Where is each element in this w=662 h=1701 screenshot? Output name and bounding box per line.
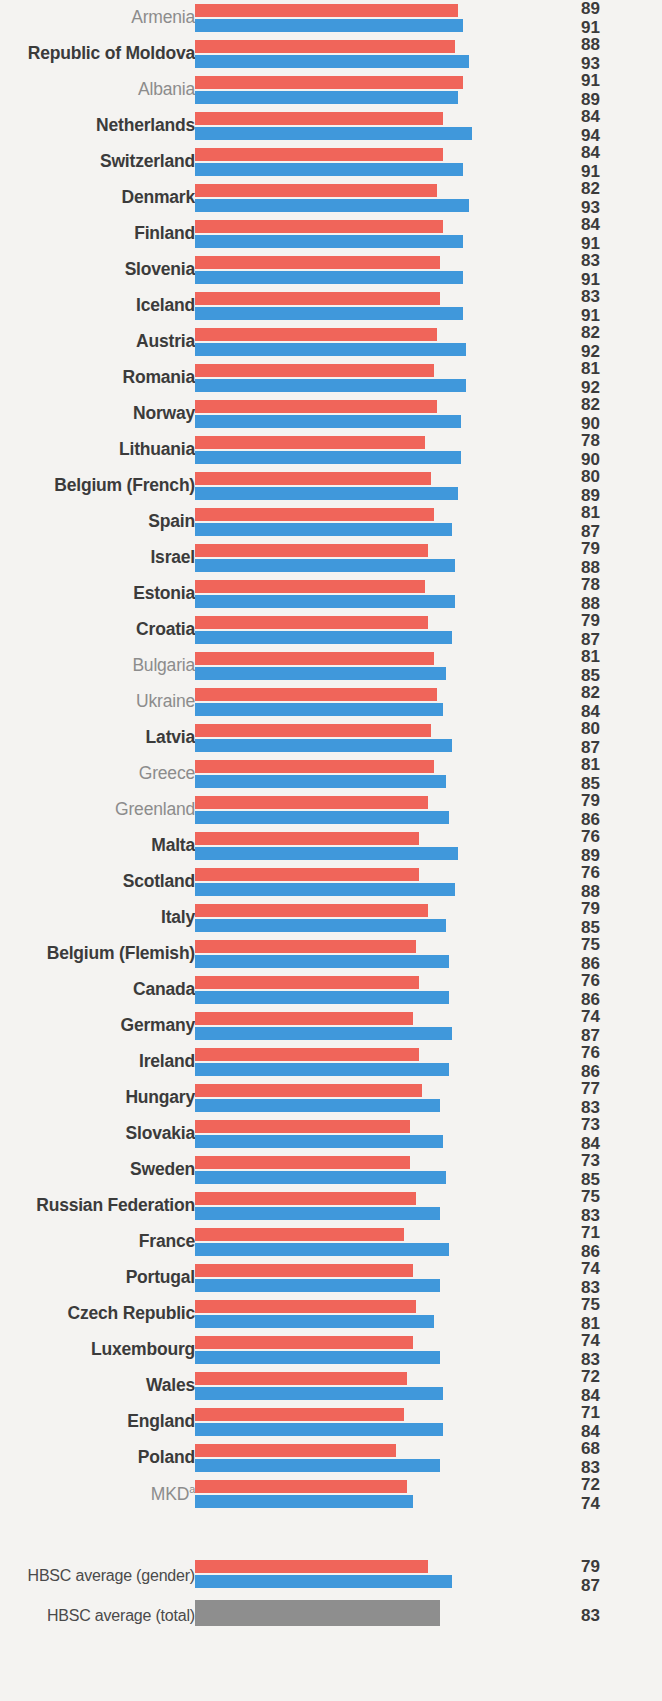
girls-bar bbox=[195, 364, 434, 377]
country-row: Czech Republic7581 bbox=[0, 1296, 662, 1332]
bar-group bbox=[195, 940, 449, 968]
girls-value: 74 bbox=[555, 1259, 600, 1278]
country-row: Spain8187 bbox=[0, 504, 662, 540]
girls-value: 75 bbox=[555, 1187, 600, 1206]
country-label: Sweden bbox=[130, 1161, 195, 1179]
bar-group bbox=[195, 184, 469, 212]
bar-group bbox=[195, 1048, 449, 1076]
bar-group bbox=[195, 1600, 440, 1626]
country-label: MKDa bbox=[151, 1484, 195, 1503]
girls-value: 75 bbox=[555, 1295, 600, 1314]
country-row: Sweden7385 bbox=[0, 1152, 662, 1188]
bar-group bbox=[195, 1372, 443, 1400]
girls-bar bbox=[195, 256, 440, 269]
boys-bar bbox=[195, 667, 446, 680]
value-labels: 7384 bbox=[555, 1115, 600, 1153]
girls-value: 83 bbox=[555, 251, 600, 270]
girls-bar bbox=[195, 544, 428, 557]
country-label: Belgium (French) bbox=[54, 477, 195, 495]
boys-bar bbox=[195, 1135, 443, 1148]
girls-bar bbox=[195, 1048, 419, 1061]
bar-group bbox=[195, 400, 461, 428]
girls-bar bbox=[195, 1300, 416, 1313]
country-row: Greece8185 bbox=[0, 756, 662, 792]
value-labels: 8087 bbox=[555, 719, 600, 757]
girls-bar bbox=[195, 1560, 428, 1573]
girls-value: 81 bbox=[555, 503, 600, 522]
value-labels: 8185 bbox=[555, 647, 600, 685]
value-labels: 8991 bbox=[555, 0, 600, 37]
boys-bar bbox=[195, 127, 472, 140]
value-labels: 7888 bbox=[555, 575, 600, 613]
country-row: Armenia8991 bbox=[0, 0, 662, 36]
section-spacer bbox=[0, 1512, 662, 1556]
boys-bar bbox=[195, 1243, 449, 1256]
value-labels: 7385 bbox=[555, 1151, 600, 1189]
country-row: Estonia7888 bbox=[0, 576, 662, 612]
girls-bar bbox=[195, 184, 437, 197]
value-labels: 8290 bbox=[555, 395, 600, 433]
bar-group bbox=[195, 724, 452, 752]
country-label: Luxembourg bbox=[91, 1341, 195, 1359]
girls-value: 71 bbox=[555, 1223, 600, 1242]
boys-bar bbox=[195, 1351, 440, 1364]
girls-bar bbox=[195, 472, 431, 485]
girls-bar bbox=[195, 1336, 413, 1349]
girls-value: 89 bbox=[555, 0, 600, 18]
girls-bar bbox=[195, 76, 463, 89]
value-labels: 83 bbox=[555, 1606, 600, 1625]
bar-group bbox=[195, 1444, 440, 1472]
girls-value: 76 bbox=[555, 827, 600, 846]
bar-group bbox=[195, 472, 458, 500]
girls-value: 79 bbox=[555, 791, 600, 810]
country-row: Germany7487 bbox=[0, 1008, 662, 1044]
girls-value: 84 bbox=[555, 107, 600, 126]
boys-bar bbox=[195, 775, 446, 788]
value-labels: 8491 bbox=[555, 215, 600, 253]
bar-group bbox=[195, 1300, 434, 1328]
country-row: Bulgaria8185 bbox=[0, 648, 662, 684]
girls-bar bbox=[195, 616, 428, 629]
girls-value: 78 bbox=[555, 431, 600, 450]
girls-value: 72 bbox=[555, 1367, 600, 1386]
country-row: France7186 bbox=[0, 1224, 662, 1260]
country-label: Albania bbox=[138, 81, 195, 99]
girls-bar bbox=[195, 940, 416, 953]
bar-group bbox=[195, 544, 455, 572]
girls-value: 76 bbox=[555, 971, 600, 990]
country-row: Canada7686 bbox=[0, 972, 662, 1008]
country-row: Denmark8293 bbox=[0, 180, 662, 216]
girls-bar bbox=[195, 148, 443, 161]
average-row: HBSC average (total)83 bbox=[0, 1596, 662, 1636]
country-row: Hungary7783 bbox=[0, 1080, 662, 1116]
girls-bar bbox=[195, 1372, 407, 1385]
boys-bar bbox=[195, 1207, 440, 1220]
boys-bar bbox=[195, 199, 469, 212]
boys-bar bbox=[195, 307, 463, 320]
girls-value: 79 bbox=[555, 1557, 600, 1576]
value-labels: 7284 bbox=[555, 1367, 600, 1405]
bar-group bbox=[195, 4, 463, 32]
country-row: Poland6883 bbox=[0, 1440, 662, 1476]
bar-group bbox=[195, 832, 458, 860]
girls-value: 78 bbox=[555, 575, 600, 594]
girls-value: 71 bbox=[555, 1403, 600, 1422]
bar-group bbox=[195, 220, 463, 248]
average-label: HBSC average (gender) bbox=[28, 1568, 195, 1584]
girls-value: 82 bbox=[555, 395, 600, 414]
boys-bar bbox=[195, 415, 461, 428]
country-row: Switzerland8491 bbox=[0, 144, 662, 180]
boys-bar bbox=[195, 991, 449, 1004]
value-labels: 8494 bbox=[555, 107, 600, 145]
value-labels: 7586 bbox=[555, 935, 600, 973]
boys-value: 74 bbox=[555, 1494, 600, 1513]
value-labels: 7986 bbox=[555, 791, 600, 829]
country-label: Slovenia bbox=[125, 261, 195, 279]
girls-bar bbox=[195, 1228, 404, 1241]
girls-bar bbox=[195, 4, 458, 17]
bar-group bbox=[195, 1120, 443, 1148]
country-label: Israel bbox=[150, 549, 195, 567]
bar-group bbox=[195, 1480, 413, 1508]
bar-group bbox=[195, 904, 446, 932]
boys-bar bbox=[195, 451, 461, 464]
